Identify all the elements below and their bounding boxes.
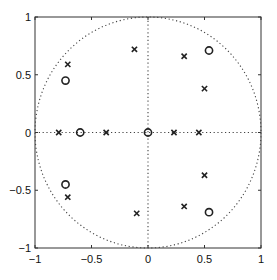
zero-marker <box>62 77 69 84</box>
x-tick-label: 0.5 <box>197 253 212 265</box>
pole-marker <box>56 130 61 135</box>
y-tick-label: 0 <box>25 127 31 139</box>
data-markers <box>56 47 212 216</box>
plot-area <box>35 17 261 248</box>
x-axis-ticks: −1−0.500.51 <box>29 17 264 265</box>
x-tick-label: −0.5 <box>81 253 103 265</box>
pole-marker <box>132 47 137 52</box>
y-tick-label: −0.5 <box>9 184 31 196</box>
y-tick-label: 1 <box>25 11 31 23</box>
pole-marker <box>196 130 201 135</box>
pole-marker <box>202 86 207 91</box>
pole-marker <box>65 62 70 67</box>
pole-marker <box>182 204 187 209</box>
pole-marker <box>182 54 187 59</box>
x-tick-label: 0 <box>145 253 151 265</box>
y-tick-label: −1 <box>18 242 31 254</box>
zero-marker <box>62 181 69 188</box>
pole-zero-plot: −1−0.500.51 −1−0.500.51 <box>0 0 277 280</box>
zero-marker <box>205 47 212 54</box>
y-tick-label: 0.5 <box>16 69 31 81</box>
pole-marker <box>134 211 139 216</box>
zero-marker <box>205 209 212 216</box>
pole-marker <box>65 195 70 200</box>
x-tick-label: −1 <box>29 253 42 265</box>
x-tick-label: 1 <box>258 253 264 265</box>
pole-marker <box>202 173 207 178</box>
